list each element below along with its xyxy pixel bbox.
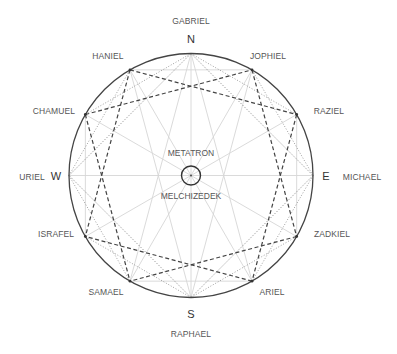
spoke-line xyxy=(130,70,191,176)
cardinal-north-letter: N xyxy=(187,33,195,45)
label-zadkiel: ZADKIEL xyxy=(314,229,350,239)
center-label-above: METATRON xyxy=(168,148,214,158)
vertex-marker xyxy=(84,113,87,116)
light-chord-line xyxy=(191,54,252,282)
spoke-line xyxy=(191,176,297,237)
spoke-line xyxy=(191,70,252,176)
vertex-marker xyxy=(295,235,298,238)
cardinal-west-letter: W xyxy=(51,170,62,182)
label-jophiel: JOPHIEL xyxy=(250,51,286,61)
dashed-star-line xyxy=(252,115,297,282)
dashed-star-line xyxy=(85,115,130,282)
vertex-marker xyxy=(129,68,132,71)
dashed-star-line xyxy=(130,237,297,282)
vertex-marker xyxy=(251,68,254,71)
label-israfel: ISRAFEL xyxy=(38,229,74,239)
spoke-line xyxy=(191,115,297,176)
dashed-star-line xyxy=(85,237,252,282)
cardinal-south-letter: S xyxy=(187,308,194,320)
light-chord-line xyxy=(191,70,252,298)
dashed-star-line xyxy=(252,70,297,237)
label-raziel: RAZIEL xyxy=(314,106,345,116)
angel-compass-diagram: METATRON MELCHIZEDEK N E S W GABRIEL MIC… xyxy=(0,0,397,354)
light-chord-line xyxy=(130,54,191,282)
label-samael: SAMAEL xyxy=(88,287,123,297)
light-chord-line xyxy=(130,70,191,298)
spoke-line xyxy=(85,115,191,176)
vertex-marker xyxy=(295,113,298,116)
vertex-marker xyxy=(251,280,254,283)
vertex-marker xyxy=(129,280,132,283)
label-raphael: RAPHAEL xyxy=(171,329,212,339)
vertex-marker xyxy=(84,235,87,238)
spoke-line xyxy=(85,176,191,237)
label-michael: MICHAEL xyxy=(343,172,382,182)
label-haniel: HANIEL xyxy=(92,51,123,61)
dashed-star-line xyxy=(85,70,252,115)
label-gabriel: GABRIEL xyxy=(172,16,210,26)
label-uriel: URIEL xyxy=(19,172,45,182)
center-dot xyxy=(190,174,192,176)
center-label-below: MELCHIZEDEK xyxy=(161,191,222,201)
dashed-star-line xyxy=(85,70,130,237)
cardinal-east-letter: E xyxy=(322,170,329,182)
dashed-star-line xyxy=(130,70,297,115)
label-ariel: ARIEL xyxy=(259,287,284,297)
label-chamuel: CHAMUEL xyxy=(33,106,75,116)
